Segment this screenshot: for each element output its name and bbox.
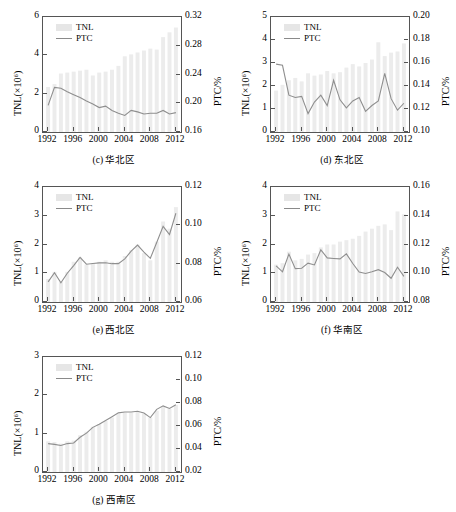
y-tickmark — [271, 39, 275, 40]
panel-c-legend: TNL PTC — [56, 22, 94, 44]
y2-ticklabel: 0.14 — [413, 79, 430, 89]
y2-tickmark — [176, 263, 180, 264]
x-tickmark — [326, 297, 327, 301]
x-tickmark — [98, 127, 99, 131]
y-tickmark — [271, 244, 275, 245]
y2-tickmark — [404, 186, 408, 187]
panel-d-caption: (d) 东北区 — [228, 152, 456, 166]
y-tickmark — [271, 16, 275, 17]
x-tickmark — [275, 297, 276, 301]
panel-e-y2-axis-title: PTC/% — [212, 247, 223, 276]
x-ticklabel: 2012 — [387, 304, 419, 314]
y-ticklabel: 3 — [16, 209, 39, 219]
bar-2007 — [142, 253, 146, 302]
bar-2000 — [325, 245, 329, 303]
bar-2003 — [344, 68, 348, 132]
y-tickmark — [271, 186, 275, 187]
panel-g-y2-axis-title: PTC/% — [212, 417, 223, 446]
bar-1995 — [65, 272, 69, 302]
legend-entry-ptc: PTC — [56, 203, 94, 214]
x-tickmark — [124, 297, 125, 301]
bar-swatch-icon — [56, 364, 72, 371]
bar-1993 — [53, 442, 57, 472]
panel-f-caption: (f) 华南区 — [228, 322, 456, 336]
legend-label-tnl: TNL — [76, 22, 94, 33]
bar-2002 — [110, 262, 114, 302]
y2-tickmark — [176, 425, 180, 426]
x-tickmark — [403, 127, 404, 131]
bar-2004 — [123, 256, 127, 302]
y2-tickmark — [176, 471, 180, 472]
x-tickmark — [98, 467, 99, 471]
y2-tickmark — [404, 215, 408, 216]
panel-c: TNL PTC TNL(×10⁶) PTC/% 02460.160.200.24… — [0, 0, 228, 170]
bar-2009 — [155, 50, 159, 132]
x-ticklabel: 2012 — [159, 304, 191, 314]
y2-ticklabel: 0.10 — [413, 266, 430, 276]
y-tickmark — [43, 394, 47, 395]
legend-entry-tnl: TNL — [284, 22, 322, 33]
y2-ticklabel: 0.20 — [413, 10, 430, 20]
y2-ticklabel: 0.20 — [185, 96, 202, 106]
x-ticklabel: 2012 — [159, 474, 191, 484]
bar-1997 — [78, 435, 82, 472]
legend-entry-ptc: PTC — [284, 33, 322, 44]
bar-1992 — [46, 87, 50, 132]
y2-tickmark — [176, 402, 180, 403]
bar-2004 — [351, 64, 355, 132]
bar-1998 — [84, 432, 88, 472]
panel-c-y2-axis-title: PTC/% — [212, 77, 223, 106]
panel-d: TNL PTC TNL(×10⁶) PTC/% 0123450.100.120.… — [228, 0, 456, 170]
line-swatch-icon — [56, 38, 72, 39]
bar-2010 — [389, 230, 393, 302]
x-ticklabel: 2012 — [387, 134, 419, 144]
y-ticklabel: 3 — [244, 209, 267, 219]
bar-2001 — [104, 421, 108, 472]
y-tickmark — [43, 131, 47, 132]
bar-1999 — [319, 247, 323, 302]
y2-tickmark — [404, 272, 408, 273]
bar-2011 — [168, 229, 172, 302]
y2-tickmark — [176, 301, 180, 302]
bar-2009 — [383, 224, 387, 302]
bar-2012 — [174, 28, 178, 132]
y2-tickmark — [176, 16, 180, 17]
panel-d-y2-axis-title: PTC/% — [440, 77, 451, 106]
bar-2007 — [370, 229, 374, 302]
line-swatch-icon — [284, 38, 300, 39]
y2-tickmark — [176, 448, 180, 449]
y2-tickmark — [176, 224, 180, 225]
x-tickmark — [47, 467, 48, 471]
bar-2004 — [351, 239, 355, 302]
bar-1994 — [59, 282, 63, 302]
bar-2011 — [168, 32, 172, 132]
bar-1995 — [293, 78, 297, 132]
y2-ticklabel: 0.06 — [185, 419, 202, 429]
y-ticklabel: 1 — [16, 427, 39, 437]
y-tickmark — [43, 272, 47, 273]
line-swatch-icon — [56, 378, 72, 379]
x-tickmark — [98, 297, 99, 301]
bar-2006 — [136, 412, 140, 472]
legend-entry-ptc: PTC — [56, 373, 94, 384]
y-ticklabel: 1 — [244, 266, 267, 276]
panel-f-y-axis-title: TNL(×10⁶) — [240, 241, 251, 286]
legend-label-tnl: TNL — [304, 22, 322, 33]
panel-g-caption: (g) 西南区 — [0, 492, 228, 506]
y-ticklabel: 5 — [244, 10, 267, 20]
x-tickmark — [377, 127, 378, 131]
y2-ticklabel: 0.18 — [413, 33, 430, 43]
x-tickmark — [73, 467, 74, 471]
bar-2008 — [376, 226, 380, 302]
x-tickmark — [47, 127, 48, 131]
bar-swatch-icon — [56, 194, 72, 201]
y-ticklabel: 4 — [16, 180, 39, 190]
bar-2010 — [161, 407, 165, 472]
bar-2008 — [148, 418, 152, 472]
y-tickmark — [43, 215, 47, 216]
y2-tickmark — [404, 244, 408, 245]
y-ticklabel: 3 — [16, 350, 39, 360]
y-ticklabel: 2 — [16, 238, 39, 248]
bar-1993 — [281, 85, 285, 132]
y-ticklabel: 3 — [244, 56, 267, 66]
